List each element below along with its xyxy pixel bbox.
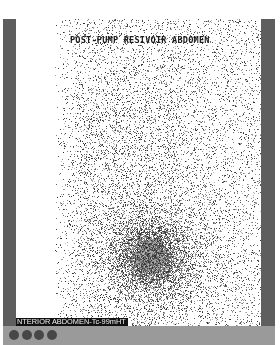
scintigraphy-image: POST-PUMP RESIVOIR ABDOMEN NTERIOR ABDOM… [16,19,261,326]
indicator-dot-icon[interactable] [9,330,19,340]
indicator-dots [9,330,57,340]
indicator-dot-icon[interactable] [22,330,32,340]
indicator-dot-icon[interactable] [34,330,44,340]
tracer-distribution [16,19,261,326]
scan-label: NTERIOR ABDOMEN-Tc-99mHT [16,318,128,326]
indicator-dot-icon[interactable] [47,330,57,340]
footer-bar [3,326,275,345]
scan-title: POST-PUMP RESIVOIR ABDOMEN [70,35,210,45]
